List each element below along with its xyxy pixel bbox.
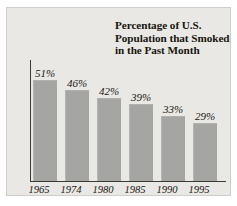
bar-value-label-1965: 51% bbox=[27, 67, 63, 79]
bar-1980 bbox=[97, 98, 121, 181]
bar-1974 bbox=[65, 90, 89, 181]
chart-title: Percentage of U.S. Population that Smoke… bbox=[115, 19, 233, 57]
bar-1990 bbox=[161, 116, 185, 181]
chart-panel: Percentage of U.S. Population that Smoke… bbox=[6, 7, 231, 196]
chart-title-line-1: Percentage of U.S. bbox=[115, 19, 233, 32]
chart-title-line-3: in the Past Month bbox=[115, 44, 233, 57]
x-axis-line bbox=[30, 181, 226, 182]
plot-area: 51%46%42%39%33%29% bbox=[30, 58, 226, 182]
bar-1985 bbox=[129, 104, 153, 181]
bar-value-label-1974: 46% bbox=[59, 77, 95, 89]
x-tick-1995: 1995 bbox=[175, 184, 223, 195]
bar-1995 bbox=[193, 123, 217, 181]
bar-value-label-1990: 33% bbox=[155, 103, 191, 115]
bar-value-label-1995: 29% bbox=[187, 110, 223, 122]
bar-1965 bbox=[33, 80, 57, 181]
chart-screenshot: Percentage of U.S. Population that Smoke… bbox=[0, 0, 237, 206]
chart-title-line-2: Population that Smoked bbox=[115, 32, 233, 45]
bar-value-label-1980: 42% bbox=[91, 85, 127, 97]
bar-value-label-1985: 39% bbox=[123, 91, 159, 103]
